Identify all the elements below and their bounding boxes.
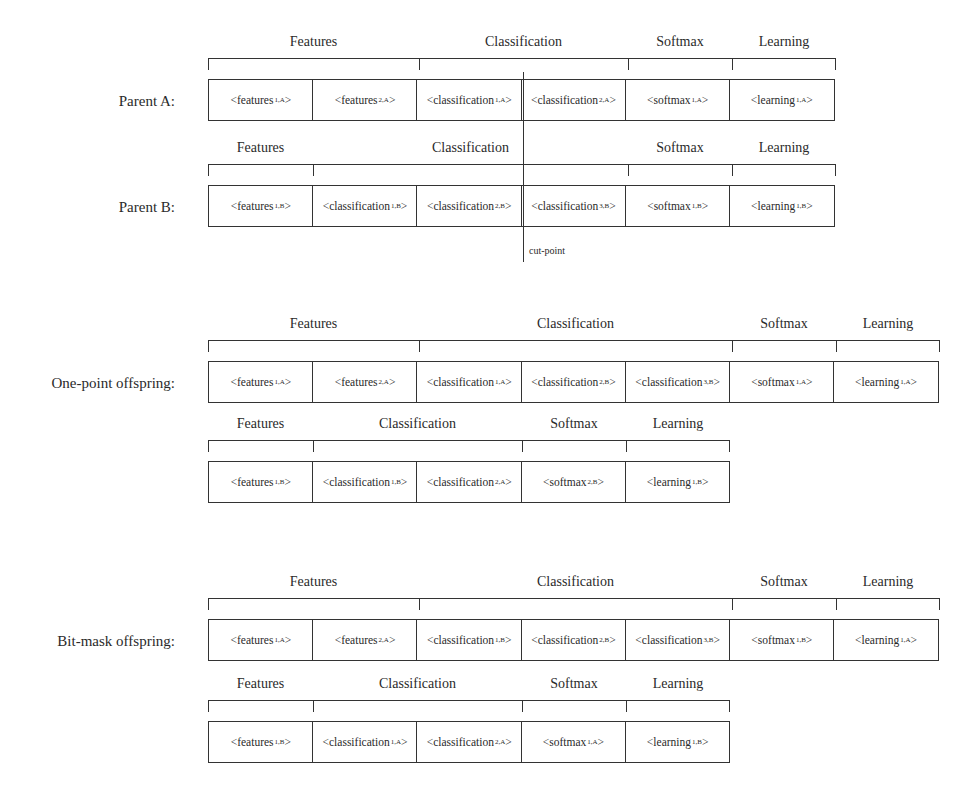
gene-subscript: 1,A bbox=[900, 378, 910, 386]
gene-close: > bbox=[806, 200, 813, 212]
group-label-classification: Classification bbox=[419, 34, 628, 50]
gene-subscript: 1,B bbox=[796, 202, 806, 210]
group-bracket bbox=[208, 58, 419, 70]
gene-name: <classification bbox=[427, 200, 494, 212]
gene-close: > bbox=[505, 476, 512, 488]
gene-subscript: 1,A bbox=[495, 378, 505, 386]
gene-close: > bbox=[702, 736, 709, 748]
gene-subscript: 1,B bbox=[495, 636, 505, 644]
gene-name: <classification bbox=[635, 634, 702, 646]
group-bracket bbox=[628, 58, 732, 70]
gene-subscript: 2,A bbox=[379, 378, 389, 386]
gene-subscript: 1,B bbox=[692, 202, 702, 210]
gene-subscript: 1,A bbox=[587, 738, 597, 746]
gene-name: <classification bbox=[427, 736, 494, 748]
gene-cell-learning: <learning1,B> bbox=[729, 185, 835, 227]
group-label-features: Features bbox=[208, 416, 313, 432]
gene-name: <learning bbox=[855, 634, 899, 646]
gene-cell-classification: <classification1,B> bbox=[312, 185, 418, 227]
group-label-features: Features bbox=[208, 574, 419, 590]
gene-cell-classification: <classification1,B> bbox=[416, 619, 522, 661]
group-bracket bbox=[208, 700, 313, 712]
gene-close: > bbox=[609, 376, 616, 388]
group-label-learning: Learning bbox=[732, 34, 836, 50]
gene-subscript: 1,A bbox=[692, 96, 702, 104]
gene-name: <softmax bbox=[647, 200, 691, 212]
gene-close: > bbox=[609, 634, 616, 646]
cut-point-label: cut-point bbox=[529, 245, 565, 256]
gene-subscript: 1,A bbox=[495, 96, 505, 104]
group-label-learning: Learning bbox=[732, 140, 836, 156]
gene-cell-learning: <learning1,B> bbox=[625, 461, 731, 503]
gene-cell-features: <features1,A> bbox=[208, 619, 314, 661]
gene-subscript: 1,A bbox=[274, 96, 284, 104]
row-label-parent-b: Parent B: bbox=[0, 199, 175, 216]
gene-subscript: 1,A bbox=[274, 378, 284, 386]
gene-cell-features: <features1,B> bbox=[208, 185, 314, 227]
gene-name: <classification bbox=[323, 200, 390, 212]
gene-cell-classification: <classification3,B> bbox=[521, 185, 627, 227]
gene-name: <softmax bbox=[543, 736, 587, 748]
gene-name: <features bbox=[335, 376, 378, 388]
gene-close: > bbox=[505, 200, 512, 212]
gene-close: > bbox=[806, 94, 813, 106]
gene-name: <softmax bbox=[751, 376, 795, 388]
gene-close: > bbox=[806, 634, 813, 646]
group-bracket bbox=[208, 598, 419, 610]
group-bracket bbox=[419, 598, 732, 610]
gene-cell-classification: <classification1,A> bbox=[416, 361, 522, 403]
group-label-features: Features bbox=[208, 140, 313, 156]
gene-name: <features bbox=[335, 94, 378, 106]
gene-cell-classification: <classification2,A> bbox=[416, 721, 522, 763]
gene-close: > bbox=[598, 736, 605, 748]
gene-close: > bbox=[713, 634, 720, 646]
row-label-bit-mask-offspring-1: Bit-mask offspring: bbox=[0, 633, 175, 650]
gene-subscript: 1,A bbox=[796, 378, 806, 386]
gene-name: <learning bbox=[647, 476, 691, 488]
gene-name: <classification bbox=[427, 476, 494, 488]
gene-name: <features bbox=[335, 634, 378, 646]
gene-subscript: 2,A bbox=[379, 96, 389, 104]
gene-cell-features: <features1,A> bbox=[208, 79, 314, 121]
group-label-softmax: Softmax bbox=[522, 416, 626, 432]
gene-subscript: 2,A bbox=[599, 96, 609, 104]
gene-subscript: 2,A bbox=[495, 478, 505, 486]
group-label-softmax: Softmax bbox=[732, 316, 836, 332]
gene-close: > bbox=[609, 200, 616, 212]
cut-point-line bbox=[523, 72, 524, 262]
group-bracket bbox=[732, 164, 836, 176]
gene-name: <learning bbox=[751, 94, 795, 106]
gene-cell-classification: <classification2,B> bbox=[521, 619, 627, 661]
group-label-features: Features bbox=[208, 316, 419, 332]
gene-cell-learning: <learning1,B> bbox=[625, 721, 731, 763]
gene-close: > bbox=[609, 94, 616, 106]
gene-name: <classification bbox=[635, 376, 702, 388]
gene-name: <classification bbox=[323, 736, 390, 748]
group-label-features: Features bbox=[208, 676, 313, 692]
gene-close: > bbox=[702, 200, 709, 212]
gene-name: <learning bbox=[855, 376, 899, 388]
gene-cell-classification: <classification1,A> bbox=[416, 79, 522, 121]
gene-subscript: 1,B bbox=[275, 738, 285, 746]
gene-subscript: 1,A bbox=[900, 636, 910, 644]
group-label-softmax: Softmax bbox=[732, 574, 836, 590]
gene-subscript: 1,B bbox=[692, 478, 702, 486]
group-bracket bbox=[313, 164, 628, 176]
gene-name: <classification bbox=[427, 376, 494, 388]
gene-close: > bbox=[806, 376, 813, 388]
gene-cell-softmax: <softmax1,A> bbox=[729, 361, 835, 403]
gene-name: <features bbox=[231, 736, 274, 748]
gene-cell-classification: <classification1,A> bbox=[312, 721, 418, 763]
gene-name: <softmax bbox=[543, 476, 587, 488]
gene-cell-softmax: <softmax1,B> bbox=[625, 185, 731, 227]
gene-cell-features: <features2,A> bbox=[312, 361, 418, 403]
gene-name: <classification bbox=[427, 94, 494, 106]
group-bracket bbox=[419, 58, 628, 70]
gene-cell-features: <features2,A> bbox=[312, 79, 418, 121]
gene-close: > bbox=[389, 94, 396, 106]
gene-close: > bbox=[702, 94, 709, 106]
gene-name: <classification bbox=[427, 634, 494, 646]
gene-name: <classification bbox=[531, 94, 598, 106]
group-label-learning: Learning bbox=[836, 316, 940, 332]
gene-cell-features: <features1,A> bbox=[208, 361, 314, 403]
